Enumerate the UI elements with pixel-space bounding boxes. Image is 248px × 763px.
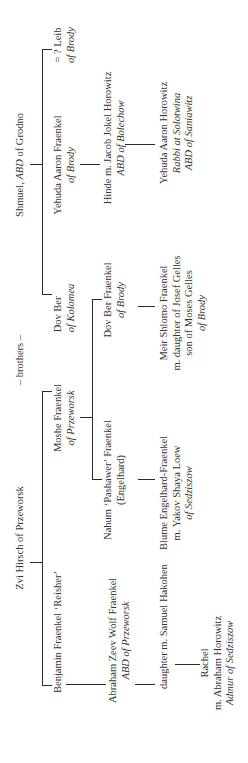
moshe-name: Moshe Fraenkel: [52, 384, 65, 452]
meir-shlomo-name: Meir Shlomo Fraenkel: [158, 255, 171, 370]
benjamin-name: Benjamin Fraenkel ‘Reisher’: [52, 571, 65, 693]
node-shmuel: Shmuel, ABD of Grodno: [14, 113, 27, 217]
brothers-label: – brothers –: [14, 335, 27, 385]
dov-ber-fraenkel-name: Dov Ber Fraenkel: [102, 262, 115, 337]
family-tree-diagram: Zvi Hirsch of Przeworsk – brothers – Shm…: [0, 0, 248, 763]
connector-hinde-yehuda: [125, 144, 155, 145]
connector-dov-ber-kolomea-drop: [42, 294, 52, 295]
dov-ber-fraenkel-place: of Brody: [115, 262, 128, 337]
rachel-title: Admur of Sedziszow: [224, 616, 237, 710]
daughter-name: daughter m. Samuel Hakohen: [158, 564, 171, 689]
node-hinde: Hinde m. Jacob Jokel Horowitz ABD of Bol…: [102, 72, 127, 205]
yehuda-aaron-horowitz-title1: Rabbi at Solotwina: [171, 82, 184, 184]
node-dov-ber-kolomea: Dov Ber of Kolomea: [52, 284, 77, 333]
node-abraham-zeev: Abraham Zeev Wolf Fraenkel ABD of Przewo…: [107, 578, 132, 703]
node-nahum: Nahum ‘Pashawer’ Fraenkel (Engelhard): [102, 420, 127, 540]
rachel-name: Rachel: [199, 616, 212, 710]
abraham-zeev-name: Abraham Zeev Wolf Fraenkel: [107, 578, 120, 703]
node-leib: = ? Leib of Brody: [52, 27, 77, 63]
nahum-alt-name: (Engelhard): [115, 420, 128, 540]
node-daughter: daughter m. Samuel Hakohen: [158, 564, 171, 689]
meir-shlomo-spouse-parent: son of Moses Gelles: [183, 255, 196, 370]
connector-abraham-daughter: [135, 684, 155, 685]
node-yehuda-aaron-fraenkel: Yehuda Aaron Fraenkel of Brody: [52, 115, 77, 214]
yehuda-aaron-fraenkel-place: of Brody: [65, 115, 78, 214]
shmuel-title: ABD: [14, 159, 25, 179]
connector-shmuel-bar: [42, 49, 43, 295]
node-dov-ber-fraenkel: Dov Ber Fraenkel of Brody: [102, 262, 127, 337]
connector-nahum-drop: [92, 479, 102, 480]
connector-moshe-drop: [42, 391, 52, 392]
connector-benjamin-abraham: [66, 684, 106, 685]
connector-zvi-stub: [30, 562, 42, 563]
meir-shlomo-place: of Brody: [196, 255, 209, 370]
connector-shmuel-stub: [30, 164, 42, 165]
yehuda-aaron-fraenkel-name: Yehuda Aaron Fraenkel: [52, 115, 65, 214]
connector-leib-drop: [42, 49, 52, 50]
node-rachel: Rachel m. Abraham Horowitz Admur of Sedz…: [199, 616, 237, 710]
brothers-text: – brothers –: [14, 335, 27, 385]
rachel-spouse: m. Abraham Horowitz: [212, 616, 225, 710]
connector-nahum-blume: [138, 479, 155, 480]
dov-ber-kolomea-name: Dov Ber: [52, 284, 65, 333]
blume-name: Blume Engelhard-Fraenkel: [158, 436, 171, 550]
shmuel-place: of Grodno: [14, 113, 25, 159]
moshe-place: of Przeworsk: [65, 384, 78, 452]
connector-moshe-bar: [92, 299, 93, 480]
connector-dov-ber-meir: [138, 306, 155, 307]
nahum-name: Nahum ‘Pashawer’ Fraenkel: [102, 420, 115, 540]
hinde-name: Hinde m. Jacob Jokel Horowitz: [102, 72, 115, 205]
connector-yehuda-hinde: [80, 164, 100, 165]
connector-daughter-rachel: [175, 664, 200, 665]
leib-place: of Brody: [65, 27, 78, 63]
connector-dov-ber-fraenkel-drop: [92, 299, 102, 300]
connector-benjamin-drop: [42, 685, 52, 686]
node-meir-shlomo: Meir Shlomo Fraenkel m. daughter of Jose…: [158, 255, 208, 370]
node-zvi-hirsch: Zvi Hirsch of Przeworsk: [14, 486, 27, 590]
hinde-title: ABD of Bolechow: [115, 72, 128, 205]
abraham-zeev-title: ABD of Przeworsk: [120, 578, 133, 703]
blume-place: of Sedziszow: [183, 436, 196, 550]
leib-name: = ? Leib: [52, 27, 65, 63]
zvi-hirsch-name: Zvi Hirsch of Przeworsk: [14, 486, 27, 590]
connector-moshe-stub: [80, 417, 92, 418]
shmuel-name: Shmuel,: [14, 180, 25, 217]
yehuda-aaron-horowitz-name: Yehuda Aaron Horowitz: [158, 82, 171, 184]
dov-ber-kolomea-place: of Kolomea: [65, 284, 78, 333]
node-yehuda-aaron-horowitz: Yehuda Aaron Horowitz Rabbi at Solotwina…: [158, 82, 196, 184]
meir-shlomo-spouse: m. daughter of Josef Gelles: [171, 255, 184, 370]
connector-zvi-bar: [42, 391, 43, 686]
node-moshe: Moshe Fraenkel of Przeworsk: [52, 384, 77, 452]
node-benjamin: Benjamin Fraenkel ‘Reisher’: [52, 571, 65, 693]
yehuda-aaron-horowitz-title2: ABD of Saniawitz: [183, 82, 196, 184]
blume-spouse: m. Yakov Shaya Loew: [171, 436, 184, 550]
node-blume: Blume Engelhard-Fraenkel m. Yakov Shaya …: [158, 436, 196, 550]
